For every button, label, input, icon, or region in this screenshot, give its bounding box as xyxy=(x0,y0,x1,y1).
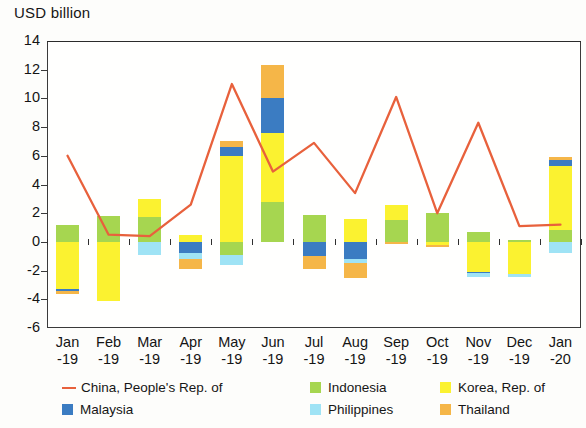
x-tick-label: Mar-19 xyxy=(129,334,170,368)
bar-segment xyxy=(344,242,367,259)
stacked-bar xyxy=(426,41,449,328)
bar-segment xyxy=(549,157,572,160)
x-tick-label-month: Mar xyxy=(129,334,170,351)
x-tick-label: Feb-19 xyxy=(88,334,129,368)
y-tick-label: -6 xyxy=(0,319,40,335)
y-tick-mark xyxy=(41,156,47,157)
x-tick-label-year: -19 xyxy=(129,351,170,368)
x-tick-label: Dec-19 xyxy=(499,334,540,368)
legend-item[interactable]: Indonesia xyxy=(310,380,387,395)
x-tick-label-year: -19 xyxy=(293,351,334,368)
x-tick-label: Aug-19 xyxy=(335,334,376,368)
stacked-bar xyxy=(303,41,326,328)
bar-segment xyxy=(220,255,243,265)
x-tick-label-year: -19 xyxy=(376,351,417,368)
legend-color-swatch xyxy=(310,382,321,393)
x-tick-label-month: Dec xyxy=(499,334,540,351)
legend-line-swatch xyxy=(62,387,76,389)
x-tick-label: Jan-20 xyxy=(540,334,581,368)
legend-item[interactable]: Malaysia xyxy=(62,402,133,417)
x-tick-mark xyxy=(499,239,500,245)
x-tick-label-month: Jun xyxy=(252,334,293,351)
bar-segment xyxy=(426,245,449,246)
x-tick-label-year: -19 xyxy=(499,351,540,368)
legend-item[interactable]: Thailand xyxy=(440,402,510,417)
x-tick-label-month: Jan xyxy=(540,334,581,351)
y-tick-mark xyxy=(41,213,47,214)
stacked-bar xyxy=(508,41,531,328)
bar-segment xyxy=(385,242,408,244)
x-tick-label-year: -20 xyxy=(540,351,581,368)
bar-segment xyxy=(179,259,202,269)
bar-segment xyxy=(549,160,572,166)
legend-color-swatch xyxy=(440,382,451,393)
x-tick-label-month: Apr xyxy=(170,334,211,351)
x-tick-mark xyxy=(581,239,582,245)
x-tick-label-year: -19 xyxy=(211,351,252,368)
legend-label: Malaysia xyxy=(80,402,133,417)
x-tick-mark xyxy=(252,239,253,245)
bar-segment xyxy=(467,273,490,277)
legend-label: Korea, Rep. of xyxy=(458,380,545,395)
legend-color-swatch xyxy=(62,404,73,415)
x-tick-mark xyxy=(458,239,459,245)
x-tick-label-year: -19 xyxy=(335,351,376,368)
x-tick-mark xyxy=(540,239,541,245)
y-tick-label: 0 xyxy=(0,233,40,249)
y-tick-label: 2 xyxy=(0,204,40,220)
bar-segment xyxy=(344,263,367,277)
x-tick-mark xyxy=(47,239,48,245)
y-tick-mark xyxy=(41,98,47,99)
stacked-bar xyxy=(97,41,120,328)
x-tick-label-year: -19 xyxy=(458,351,499,368)
x-tick-mark xyxy=(170,239,171,245)
x-tick-label-year: -19 xyxy=(252,351,293,368)
x-tick-label-month: Nov xyxy=(458,334,499,351)
legend-label: Philippines xyxy=(328,402,393,417)
bar-segment xyxy=(138,217,161,242)
x-tick-label: Jan-19 xyxy=(47,334,88,368)
bar-segment xyxy=(385,220,408,242)
y-tick-label: 12 xyxy=(0,61,40,77)
bar-segment xyxy=(56,225,79,242)
bar-segment xyxy=(426,213,449,242)
x-tick-label: Oct-19 xyxy=(417,334,458,368)
legend-item[interactable]: Philippines xyxy=(310,402,393,417)
legend-item[interactable]: China, People's Rep. of xyxy=(62,380,222,395)
stacked-bar xyxy=(56,41,79,328)
bar-segment xyxy=(220,156,243,242)
bar-segment xyxy=(385,205,408,221)
bar-segment xyxy=(56,291,79,293)
y-tick-label: -2 xyxy=(0,262,40,278)
bar-segment xyxy=(56,242,79,289)
x-tick-label: Apr-19 xyxy=(170,334,211,368)
bar-segment xyxy=(179,242,202,253)
x-tick-label: Jul-19 xyxy=(293,334,334,368)
bar-segment xyxy=(467,242,490,272)
bar-segment xyxy=(261,65,284,98)
bar-segment xyxy=(138,199,161,217)
x-tick-mark xyxy=(211,239,212,245)
bar-segment xyxy=(508,242,531,274)
y-tick-label: 10 xyxy=(0,89,40,105)
x-tick-label: Nov-19 xyxy=(458,334,499,368)
bar-segment xyxy=(179,235,202,242)
legend-label: China, People's Rep. of xyxy=(81,380,222,395)
stacked-bar xyxy=(220,41,243,328)
bar-segment xyxy=(261,98,284,132)
x-tick-mark xyxy=(129,239,130,245)
x-tick-label-month: Jan xyxy=(47,334,88,351)
x-tick-label: May-19 xyxy=(211,334,252,368)
legend-item[interactable]: Korea, Rep. of xyxy=(440,380,545,395)
chart-legend: China, People's Rep. ofIndonesiaKorea, R… xyxy=(0,378,586,428)
x-tick-label-month: Oct xyxy=(417,334,458,351)
bar-segment xyxy=(220,242,243,255)
stacked-bar xyxy=(344,41,367,328)
y-tick-mark xyxy=(41,127,47,128)
bar-segment xyxy=(97,242,120,301)
y-tick-label: 4 xyxy=(0,176,40,192)
stacked-bar xyxy=(385,41,408,328)
y-tick-mark xyxy=(41,271,47,272)
legend-label: Thailand xyxy=(458,402,510,417)
y-tick-mark xyxy=(41,299,47,300)
